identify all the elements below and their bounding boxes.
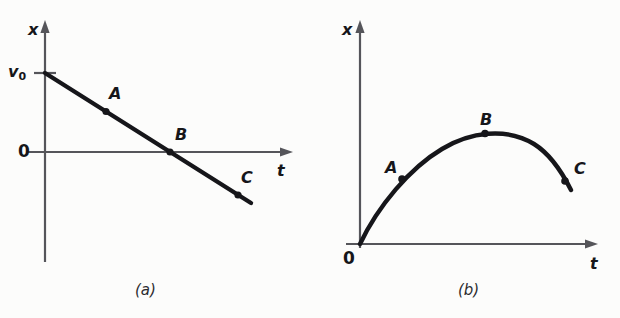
panel-b-y-axis <box>355 20 364 248</box>
panel-a-x-axis-label: t <box>277 163 285 179</box>
panel-b-y-axis-label: x <box>342 22 352 38</box>
panel-b-data-curve <box>360 133 571 244</box>
physics-figure-two-graphs: x t 0 v0 A B C (a) <box>0 0 620 318</box>
panel-a-point-a-label: A <box>109 86 121 102</box>
panel-b-x-axis-label: t <box>590 256 598 272</box>
panel-a-point-b <box>166 148 173 155</box>
panel-a-intercept-subscript: 0 <box>18 70 26 83</box>
panel-b-point-c-label: C <box>574 161 586 177</box>
panel-b-point-b-label: B <box>480 112 492 128</box>
panel-a-point-c <box>234 191 241 198</box>
panel-a-data-line <box>45 73 251 203</box>
graph-panel-b: x t 0 A B C (b) <box>310 0 620 318</box>
panel-a-point-a <box>102 108 109 115</box>
panel-b-caption: (b) <box>458 283 479 298</box>
panel-b-point-a <box>398 175 406 183</box>
panel-a-y-axis-label: x <box>28 22 38 38</box>
panel-a-caption: (a) <box>135 283 156 298</box>
panel-a-point-c-label: C <box>241 170 253 186</box>
panel-a-x-axis <box>28 147 293 156</box>
graph-panel-a: x t 0 v0 A B C (a) <box>0 0 310 318</box>
panel-b-point-c <box>561 177 569 185</box>
panel-a-intercept-label: v0 <box>8 64 26 80</box>
panel-a-plot <box>0 0 310 318</box>
panel-b-point-b <box>481 130 489 138</box>
panel-a-point-b-label: B <box>175 127 187 143</box>
panel-a-origin-label: 0 <box>18 143 30 160</box>
panel-b-origin-label: 0 <box>343 250 355 267</box>
panel-a-intercept-prefix: v <box>8 62 18 81</box>
panel-a-y-axis <box>40 20 49 262</box>
panel-b-point-a-label: A <box>385 160 397 176</box>
panel-b-x-axis <box>346 239 598 248</box>
